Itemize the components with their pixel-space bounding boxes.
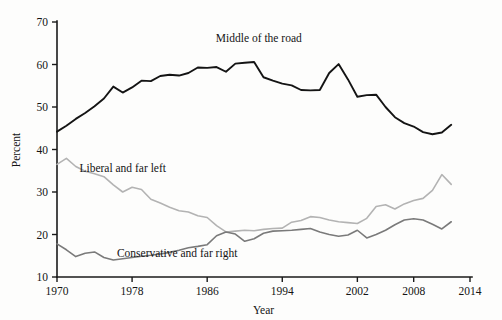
y-tick-label-40: 40 [37,144,49,156]
series-line-0 [57,62,451,134]
x-tick-label-2014: 2014 [459,285,482,297]
x-tick-label-1978: 1978 [121,285,144,297]
series-annotations: Middle of the roadLiberal and far leftCo… [79,32,302,260]
x-axis-ticks: 1970197819861994200220082014 [46,277,482,297]
x-tick-label-2002: 2002 [346,285,369,297]
data-series-group [57,62,451,260]
line-chart-plot: 10203040506070 1970197819861994200220082… [0,0,502,320]
x-tick-label-2008: 2008 [402,285,425,297]
y-axis-ticks: 10203040506070 [37,16,58,283]
chart-container: 10203040506070 1970197819861994200220082… [0,0,502,320]
y-tick-label-70: 70 [37,16,49,28]
y-tick-label-30: 30 [37,186,49,198]
y-axis-title: Percent [10,132,22,167]
y-tick-label-50: 50 [37,101,49,113]
x-tick-label-1994: 1994 [271,285,294,297]
y-tick-label-60: 60 [37,59,49,71]
y-tick-label-20: 20 [37,229,49,241]
x-axis-title: Year [253,304,274,316]
series-label-2: Conservative and far right [117,247,238,260]
y-tick-label-10: 10 [37,271,49,283]
series-label-1: Liberal and far left [79,162,166,174]
series-label-0: Middle of the road [216,32,302,44]
x-tick-label-1970: 1970 [46,285,69,297]
x-tick-label-1986: 1986 [196,285,219,297]
